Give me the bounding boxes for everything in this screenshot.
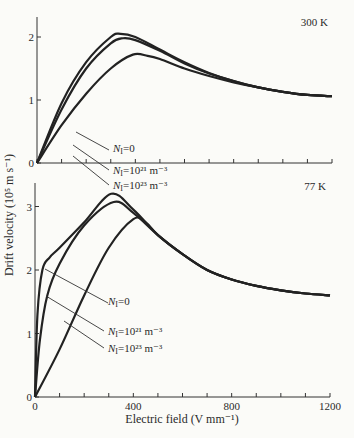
top-curves [37,34,332,163]
drift-velocity-figure: 012 300 K NI=0NI=10²¹ m⁻³NI=10²³ m⁻³ 012… [0,0,354,438]
y-tick-label: 2 [27,264,33,276]
bottom-x-ticks [35,393,330,397]
series-curve [35,202,330,397]
legend-leader-line [73,156,109,185]
legend-leader-line [46,296,104,331]
legend-label: NI=0 [107,295,130,309]
top-temperature-label: 300 K [301,16,328,28]
bottom-curves [35,194,330,397]
bottom-panel-77k: 0123 77 K NI=0NI=10²¹ m⁻³NI=10²³ m⁻³ [27,180,331,403]
legend-leader-line [64,321,104,348]
legend-leader-line [76,132,109,150]
bottom-temperature-label: 77 K [304,180,326,192]
y-tick-label: 2 [29,31,35,43]
y-axis-title: Drift velocity (10⁵ m s⁻¹) [2,154,16,276]
legend-leader-line [73,145,109,170]
legend-label: NI=10²³ m⁻³ [107,342,163,356]
legend-label: NI=10²³ m⁻³ [112,179,168,193]
y-tick-label: 1 [29,94,35,106]
y-tick-label: 0 [29,157,35,169]
series-curve [35,194,330,397]
top-y-ticks: 012 [29,31,42,169]
x-tick-label: 400 [125,400,142,412]
x-tick-label: 800 [223,400,240,412]
series-curve [35,218,330,397]
legend-label: NI=10²¹ m⁻³ [107,325,163,339]
legend-leader-line [45,269,108,303]
y-tick-label: 1 [27,328,33,340]
x-tick-labels: 04008001200 [32,400,341,412]
y-tick-label: 3 [27,201,33,213]
legend-label: NI=0 [112,142,135,156]
x-tick-label: 1200 [319,400,342,412]
x-tick-label: 0 [32,400,38,412]
legend-label: NI=10²¹ m⁻³ [112,164,168,178]
x-axis-title: Electric field (V mm⁻¹) [125,412,238,426]
top-panel-300k: 012 300 K NI=0NI=10²¹ m⁻³NI=10²³ m⁻³ [29,16,333,193]
